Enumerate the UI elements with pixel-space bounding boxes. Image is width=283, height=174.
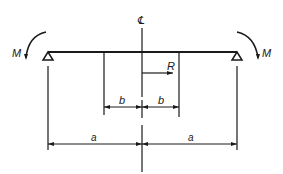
dim-a-left-label: a bbox=[91, 132, 97, 143]
right-moment-arrow-icon bbox=[237, 32, 260, 60]
beam-diagram: ℄ R b b a a M M bbox=[0, 0, 283, 174]
left-support-icon bbox=[43, 52, 53, 60]
right-support-icon bbox=[232, 52, 242, 60]
dim-a-right-label: a bbox=[188, 132, 194, 143]
right-moment-label: M bbox=[262, 47, 272, 59]
left-moment-arrow-icon bbox=[24, 32, 46, 60]
left-moment-label: M bbox=[12, 47, 22, 59]
dim-b-right-label: b bbox=[158, 94, 164, 106]
radius-label: R bbox=[167, 60, 175, 72]
centerline-symbol: ℄ bbox=[137, 14, 145, 26]
dim-b-left-label: b bbox=[119, 94, 125, 106]
